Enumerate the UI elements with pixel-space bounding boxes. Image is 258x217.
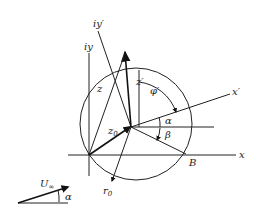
label-B: B xyxy=(188,157,196,168)
label-iy: iy xyxy=(84,41,93,52)
label-phi-prime: φ′ xyxy=(150,85,160,96)
freestream-vector xyxy=(18,187,68,203)
label-z0: z0 xyxy=(107,125,118,138)
label-z: z xyxy=(96,83,103,94)
beta-arc xyxy=(157,128,160,140)
label-x: x xyxy=(239,149,245,160)
label-r0: r0 xyxy=(103,185,113,198)
x-prime-axis xyxy=(131,94,230,127)
z-prime-vector xyxy=(125,52,131,127)
conformal-mapping-diagram: iy′ iy z z′ φ′ x′ α β z0 x B r0 U∞ α xyxy=(0,0,258,217)
label-beta: β xyxy=(164,129,171,140)
label-z-prime: z′ xyxy=(135,76,144,87)
label-iy-prime: iy′ xyxy=(93,18,105,29)
label-x-prime: x′ xyxy=(232,86,241,97)
z-vector xyxy=(89,56,124,155)
label-U-infinity: U∞ xyxy=(40,178,54,191)
label-freestream-alpha: α xyxy=(65,191,72,202)
freestream-alpha-arc xyxy=(58,190,59,202)
label-alpha: α xyxy=(165,115,172,126)
alpha-arc xyxy=(159,117,160,127)
line-to-B xyxy=(131,127,186,154)
